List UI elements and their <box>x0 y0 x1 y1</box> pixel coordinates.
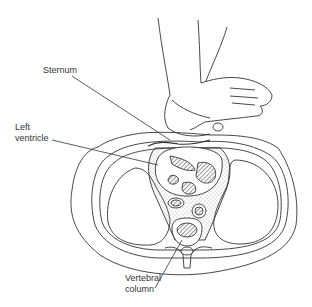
label-vertebral-column: Vertebral column <box>125 273 161 295</box>
label-left-ventricle-line2: ventricle <box>15 133 49 144</box>
thorax-diagram <box>0 0 312 307</box>
label-left-ventricle-line1: Left <box>15 122 49 133</box>
hand-illustration <box>158 18 272 136</box>
label-sternum: Sternum <box>43 65 77 76</box>
label-vertebral-line1: Vertebral <box>125 273 161 284</box>
label-left-ventricle: Left ventricle <box>15 122 49 144</box>
label-vertebral-line2: column <box>125 284 161 295</box>
